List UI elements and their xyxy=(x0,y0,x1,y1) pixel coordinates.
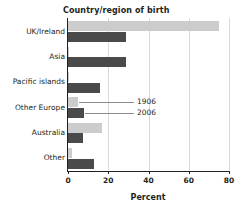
bar-australia-1906 xyxy=(68,123,102,133)
gridline-80 xyxy=(229,18,230,170)
x-tick-20 xyxy=(108,171,109,174)
x-tick-label-60: 60 xyxy=(184,176,194,185)
bar-pacific-islands-1906 xyxy=(68,72,69,82)
x-axis-title: Percent xyxy=(131,193,166,202)
bar-uk-ireland-2006 xyxy=(68,32,126,42)
category-label-australia: Australia xyxy=(32,128,65,137)
x-tick-label-80: 80 xyxy=(224,176,234,185)
chart-title: Country/region of birth xyxy=(63,6,169,15)
category-label-pacific-islands: Pacific islands xyxy=(13,77,65,86)
gridline-40 xyxy=(149,18,150,170)
x-tick-label-20: 20 xyxy=(103,176,113,185)
bar-other-europe-2006 xyxy=(68,108,84,118)
bar-asia-1906 xyxy=(68,47,69,57)
bar-other-1906 xyxy=(68,148,72,158)
annotation-label-1906: 1906 xyxy=(137,97,156,106)
category-label-other: Other xyxy=(44,153,65,162)
x-tick-80 xyxy=(229,171,230,174)
bar-other-europe-1906 xyxy=(68,97,78,107)
x-tick-label-40: 40 xyxy=(143,176,153,185)
gridline-60 xyxy=(189,18,190,170)
bar-asia-2006 xyxy=(68,57,126,67)
category-label-asia: Asia xyxy=(49,52,65,61)
category-label-other-europe: Other Europe xyxy=(15,103,65,112)
x-tick-0 xyxy=(68,171,69,174)
annotation-leader-line-2006 xyxy=(85,113,134,114)
annotation-label-2006: 2006 xyxy=(137,108,156,117)
bar-chart: Country/region of birth 020406080 Percen… xyxy=(0,0,239,212)
category-label-uk-ireland: UK/Ireland xyxy=(26,27,65,36)
x-tick-40 xyxy=(149,171,150,174)
bar-pacific-islands-2006 xyxy=(68,83,100,93)
bar-uk-ireland-1906 xyxy=(68,21,219,31)
bar-australia-2006 xyxy=(68,133,83,143)
annotation-leader-line-1906 xyxy=(79,102,134,103)
x-tick-60 xyxy=(189,171,190,174)
bar-other-2006 xyxy=(68,159,94,169)
x-tick-label-0: 0 xyxy=(65,176,70,185)
